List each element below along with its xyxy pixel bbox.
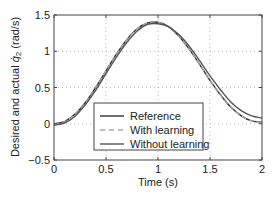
y-tick-label: 1.5 — [35, 9, 50, 21]
x-tick-label: 2 — [259, 163, 265, 175]
x-tick-label: 1 — [155, 163, 161, 175]
legend: ReferenceWith learningWithout learning — [94, 103, 210, 150]
legend-label: Without learning — [130, 138, 210, 150]
y-axis-label: Desired and actual q̇2 (rad/s) — [9, 17, 23, 157]
x-tick-label: 1.5 — [202, 163, 217, 175]
chart: 00.511.52−0.500.511.5 ReferenceWith lear… — [0, 0, 274, 198]
x-tick-label: 0 — [51, 163, 57, 175]
x-tick-label: 0.5 — [98, 163, 113, 175]
y-tick-label: 1 — [44, 45, 50, 57]
x-axis-label: Time (s) — [138, 176, 178, 188]
y-tick-label: −0.5 — [28, 154, 50, 166]
legend-label: Reference — [130, 110, 181, 122]
legend-label: With learning — [130, 124, 194, 136]
y-tick-label: 0.5 — [35, 82, 50, 94]
y-tick-label: 0 — [44, 118, 50, 130]
